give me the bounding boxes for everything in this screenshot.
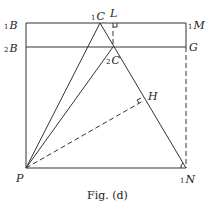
label-b1: 1B	[4, 19, 18, 32]
figure-caption: Fig. (d)	[87, 189, 128, 202]
line-c1-n1	[100, 23, 186, 168]
label-l: L	[109, 7, 117, 20]
right-angle-mark-l	[113, 23, 117, 27]
label-p: P	[15, 172, 24, 185]
angle-arc-n1	[181, 163, 183, 168]
label-g: G	[189, 41, 198, 54]
label-c1: 1C	[91, 10, 105, 23]
label-m1: 1M	[188, 19, 205, 32]
geometry-diagram: 1B 2B 1C L 1M G 2C H P 1N Fig. (d)	[0, 0, 211, 207]
label-h: H	[147, 90, 158, 103]
label-c2: 2C	[106, 54, 120, 67]
line-p-c2	[26, 47, 113, 168]
label-b2: 2B	[4, 42, 18, 55]
label-n1: 1N	[180, 173, 195, 186]
